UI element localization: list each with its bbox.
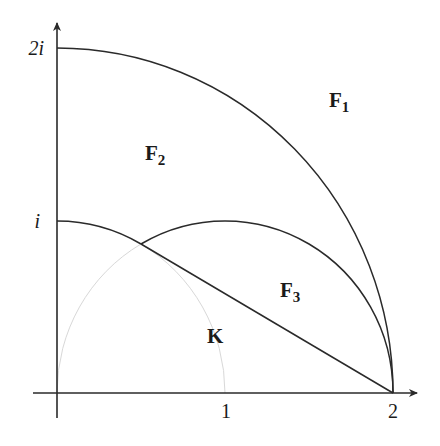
faint-arc-left bbox=[57, 244, 141, 393]
region-label-f1: F1 bbox=[329, 88, 349, 115]
x-tick-2: 2 bbox=[388, 400, 398, 422]
region-label-f3: F3 bbox=[280, 278, 300, 305]
arc-center-one bbox=[141, 221, 393, 393]
region-label-k: K bbox=[207, 324, 224, 348]
x-tick-1: 1 bbox=[221, 400, 231, 422]
arc-unit-circle bbox=[57, 221, 141, 244]
region-label-f2: F2 bbox=[145, 141, 165, 168]
y-tick-i: i bbox=[34, 210, 40, 232]
segment-to-two bbox=[141, 244, 393, 393]
faint-arc-right bbox=[141, 244, 225, 393]
y-tick-2i: 2i bbox=[28, 37, 44, 59]
fundamental-domain-diagram: 1 2 i 2i F1 F2 F3 K bbox=[0, 0, 440, 446]
